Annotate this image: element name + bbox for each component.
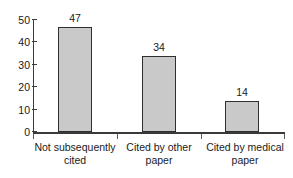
y-axis-tick-label-40: 40 (18, 36, 30, 48)
y-axis-tick-30: 30 (0, 59, 40, 71)
y-axis-tick-label-10: 10 (18, 104, 30, 116)
x-axis-category-label-1-line-1: Not subsequently (31, 141, 119, 154)
x-axis-category-label-1: Not subsequently cited (31, 141, 119, 167)
y-axis-tick-label-20: 20 (18, 81, 30, 93)
x-axis-category-label-3: Cited by medical paper (200, 141, 290, 167)
y-axis-tick-label-50: 50 (18, 14, 30, 26)
x-axis-category-label-1-line-2: cited (31, 154, 119, 167)
x-axis-category-label-2-line-1: Cited by other (117, 141, 201, 154)
bar-cited-by-medical-paper (225, 101, 259, 132)
x-axis-category-label-3-line-2: paper (200, 154, 290, 167)
bar-cited-by-other-paper (142, 56, 176, 132)
y-axis-tick-50: 50 (0, 14, 40, 26)
x-axis-tick-mark (117, 134, 118, 139)
y-axis-tick-label-30: 30 (18, 59, 30, 71)
x-axis-tick-mark (201, 134, 202, 139)
x-axis-category-label-2-line-2: paper (117, 154, 201, 167)
y-axis-tick-label-0: 0 (24, 126, 30, 138)
y-axis-line (33, 19, 34, 133)
x-axis-category-label-2: Cited by other paper (117, 141, 201, 167)
bar-chart: 50 40 30 20 10 0 47 34 14 Not subsequent… (0, 0, 293, 178)
x-axis-tick-mark (33, 134, 34, 139)
y-axis-tick-10: 10 (0, 104, 40, 116)
x-axis-category-label-3-line-1: Cited by medical (200, 141, 290, 154)
x-axis-line (33, 132, 285, 134)
bar-value-label-not-subsequently-cited: 47 (58, 12, 92, 24)
y-axis-tick-40: 40 (0, 36, 40, 48)
bar-not-subsequently-cited (58, 27, 92, 132)
bar-value-label-cited-by-other-paper: 34 (142, 41, 176, 53)
bar-value-label-cited-by-medical-paper: 14 (225, 86, 259, 98)
x-axis-tick-mark (284, 134, 285, 139)
y-axis-tick-20: 20 (0, 81, 40, 93)
